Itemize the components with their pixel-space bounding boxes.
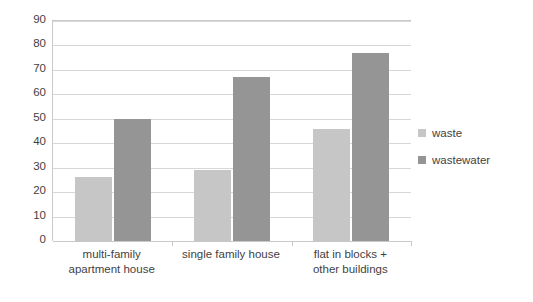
- x-axis-category-labels: multi-familyapartment housesingle family…: [52, 247, 410, 292]
- category-label-line: apartment house: [52, 262, 171, 277]
- bar-group: [194, 21, 270, 241]
- bar-waste: [313, 129, 350, 241]
- x-axis-tick: [172, 241, 173, 246]
- legend-item-waste[interactable]: waste: [418, 126, 530, 139]
- chart-legend: wastewastewater: [418, 126, 530, 180]
- x-axis-category-label: multi-familyapartment house: [52, 247, 171, 276]
- y-axis-tick-label: 80: [0, 39, 46, 51]
- category-label-line: single family house: [171, 247, 290, 262]
- legend-swatch-icon: [418, 156, 426, 164]
- y-axis: 0102030405060708090: [0, 20, 46, 240]
- category-label-line: flat in blocks +: [291, 247, 410, 262]
- y-axis-tick-label: 60: [0, 88, 46, 100]
- bar-group: [313, 21, 389, 241]
- bars-layer: [53, 21, 411, 241]
- y-axis-tick-label: 0: [0, 234, 46, 246]
- y-axis-tick-label: 70: [0, 63, 46, 75]
- legend-label: waste: [432, 127, 462, 139]
- x-axis-tick: [292, 241, 293, 246]
- y-axis-tick-label: 20: [0, 185, 46, 197]
- x-axis-category-label: single family house: [171, 247, 290, 262]
- plot-area: [52, 20, 411, 241]
- bar-wastewater: [233, 77, 270, 241]
- bar-group: [75, 21, 151, 241]
- y-axis-tick-label: 40: [0, 136, 46, 148]
- legend-swatch-icon: [418, 129, 426, 137]
- y-axis-tick-label: 90: [0, 14, 46, 26]
- axis-baseline: [53, 241, 411, 242]
- x-axis-category-label: flat in blocks +other buildings: [291, 247, 410, 276]
- category-label-line: other buildings: [291, 262, 410, 277]
- bar-wastewater: [114, 119, 151, 241]
- category-label-line: multi-family: [52, 247, 171, 262]
- y-axis-tick-label: 30: [0, 161, 46, 173]
- bar-waste: [194, 170, 231, 241]
- y-axis-tick-label: 50: [0, 112, 46, 124]
- legend-label: wastewater: [432, 154, 490, 166]
- legend-item-wastewater[interactable]: wastewater: [418, 153, 530, 166]
- bar-waste: [75, 177, 112, 241]
- x-axis-tick: [411, 241, 412, 246]
- bar-chart: 0102030405060708090 multi-familyapartmen…: [0, 0, 533, 302]
- y-axis-tick-label: 10: [0, 210, 46, 222]
- bar-wastewater: [352, 53, 389, 241]
